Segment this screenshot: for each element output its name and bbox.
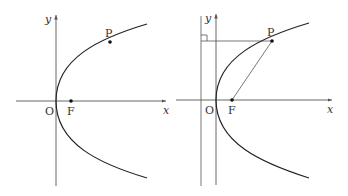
left-focus-point [69, 99, 73, 103]
left-origin-label: O [45, 105, 54, 118]
right-point-p [270, 39, 274, 43]
left-figure: y x O F P [16, 13, 170, 186]
right-figure: y x O F P [176, 12, 334, 186]
left-y-label: y [44, 13, 52, 26]
segment-pf [232, 41, 272, 100]
left-point-p [108, 40, 112, 44]
right-focus-label: F [228, 104, 236, 117]
right-y-label: y [204, 12, 212, 25]
right-focus-point [230, 98, 234, 102]
left-p-label: P [105, 27, 113, 40]
right-origin-label: O [205, 104, 214, 117]
parabola-diagrams: y x O F P y x O F P [0, 0, 348, 196]
right-x-label: x [327, 103, 334, 116]
left-focus-label: F [67, 105, 75, 118]
right-angle-mark [201, 35, 207, 41]
left-x-label: x [163, 104, 170, 117]
right-parabola [216, 23, 309, 178]
right-p-label: P [267, 26, 275, 39]
